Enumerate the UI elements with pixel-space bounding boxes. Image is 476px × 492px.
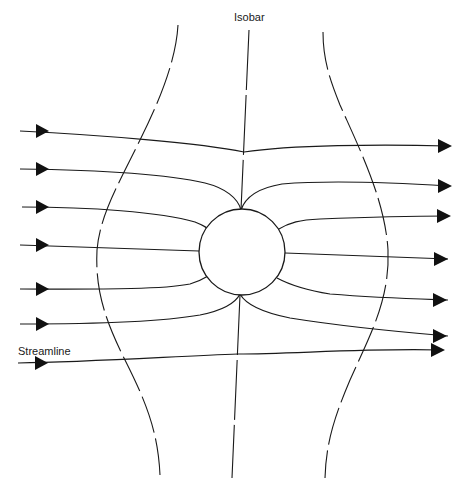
arrow-right-icon [36, 238, 49, 252]
arrow-right-icon [36, 200, 49, 214]
arrow-right-icon [36, 317, 49, 331]
streamline-1 [20, 131, 448, 152]
arrow-right-icon [431, 343, 445, 357]
streamline-7 [18, 350, 440, 363]
flow-diagram [0, 0, 476, 492]
arrow-right-icon [35, 356, 48, 370]
arrow-right-icon [437, 209, 451, 223]
arrow-right-icon [36, 162, 49, 176]
streamline-label: Streamline [18, 345, 71, 357]
streamline-6 [20, 294, 448, 336]
streamline-5 [20, 275, 210, 289]
isobar-label: Isobar [234, 11, 265, 23]
isobar-center [241, 30, 249, 210]
streamline-3-right [277, 216, 448, 230]
arrow-right-icon [438, 179, 452, 193]
arrow-right-icon [433, 329, 447, 343]
arrow-right-icon [36, 282, 49, 296]
streamline-5-right [277, 278, 448, 300]
streamline-4-right [285, 253, 448, 259]
arrow-right-icon [433, 293, 447, 307]
outflow-arrows [431, 139, 452, 357]
arrow-right-icon [36, 124, 49, 138]
cylinder-obstacle [199, 209, 285, 295]
isobar-center-lower [232, 295, 240, 478]
streamline-2 [20, 169, 448, 210]
streamline-3 [22, 207, 211, 232]
inflow-arrows [35, 124, 49, 370]
arrow-right-icon [438, 139, 452, 153]
arrow-right-icon [434, 252, 448, 266]
